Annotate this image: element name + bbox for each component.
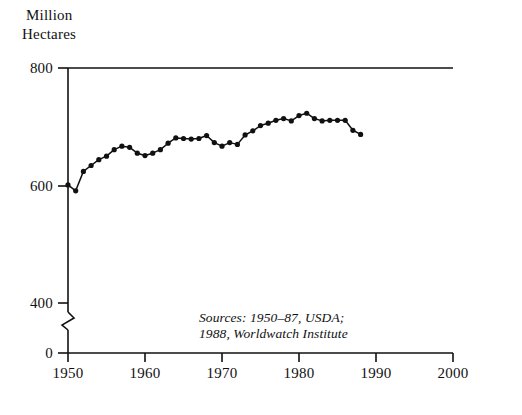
- data-point: [81, 169, 86, 174]
- data-point: [304, 111, 309, 116]
- data-point: [289, 118, 294, 123]
- data-point: [150, 151, 155, 156]
- data-point: [89, 163, 94, 168]
- data-point: [173, 135, 178, 140]
- data-point: [335, 118, 340, 123]
- data-point: [204, 133, 209, 138]
- data-point: [189, 136, 194, 141]
- data-point: [112, 147, 117, 152]
- data-point: [166, 141, 171, 146]
- data-point: [266, 121, 271, 126]
- data-point: [312, 116, 317, 121]
- data-point: [343, 118, 348, 123]
- data-point: [320, 118, 325, 123]
- data-point: [96, 157, 101, 162]
- data-markers: [65, 111, 363, 194]
- data-point: [327, 118, 332, 123]
- data-point: [73, 188, 78, 193]
- data-point: [135, 151, 140, 156]
- data-point: [258, 123, 263, 128]
- chart-figure: Million Hectares 800 600 400 0 1950 1960…: [0, 0, 522, 415]
- plot-area: [0, 0, 522, 415]
- data-point: [127, 145, 132, 150]
- data-point: [65, 182, 70, 187]
- data-point: [104, 154, 109, 159]
- data-point: [219, 144, 224, 149]
- data-point: [281, 116, 286, 121]
- axis-frame: [62, 68, 453, 353]
- data-line-grain-area: [68, 113, 361, 191]
- data-point: [196, 136, 201, 141]
- data-point: [158, 147, 163, 152]
- x-axis-ticks: [68, 353, 453, 362]
- y-axis-ticks: [58, 68, 68, 353]
- data-point: [350, 128, 355, 133]
- data-point: [358, 132, 363, 137]
- data-point: [296, 113, 301, 118]
- y-axis-break-zigzag: [62, 312, 74, 330]
- data-point: [273, 118, 278, 123]
- data-point: [119, 144, 124, 149]
- data-point: [235, 142, 240, 147]
- data-point: [142, 153, 147, 158]
- data-point: [227, 140, 232, 145]
- data-point: [243, 132, 248, 137]
- data-point: [212, 140, 217, 145]
- data-point: [181, 136, 186, 141]
- data-point: [250, 128, 255, 133]
